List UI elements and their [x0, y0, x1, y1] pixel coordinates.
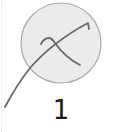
touch-point-circle [21, 3, 101, 83]
gesture-tile[interactable]: 1 [0, 0, 117, 132]
gesture-index-label: 1 [0, 95, 117, 125]
